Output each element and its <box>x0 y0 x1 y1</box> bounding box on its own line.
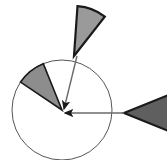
pie-diagram-svg <box>0 0 167 160</box>
figure-root <box>0 0 167 160</box>
